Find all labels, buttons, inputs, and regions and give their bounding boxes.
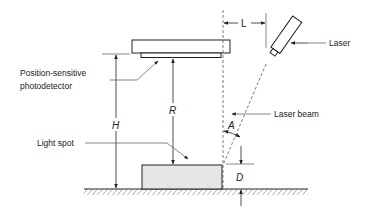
- ground: [84, 189, 308, 195]
- laser-callout: Laser: [291, 38, 350, 48]
- triangulation-diagram: L Laser Laser beam Position-sensitive ph…: [0, 0, 368, 212]
- photodetector-callout: Position-sensitive photodetector: [20, 61, 158, 91]
- dim-L-label: L: [241, 18, 247, 29]
- laser-device: [268, 16, 302, 58]
- dim-H-label: H: [112, 120, 120, 131]
- dimension-D: D: [226, 146, 254, 206]
- sensor-head: [132, 40, 230, 58]
- laser-beam-label: Laser beam: [274, 109, 319, 119]
- dimension-H: H: [102, 54, 130, 188]
- light-spot-callout: Light spot: [37, 138, 188, 159]
- photodetector-label-line2: photodetector: [20, 81, 72, 91]
- dimension-R: R: [167, 59, 179, 164]
- photodetector-label-line1: Position-sensitive: [20, 68, 86, 78]
- light-spot-label: Light spot: [37, 138, 74, 148]
- laser-label: Laser: [329, 38, 350, 48]
- dim-D-label: D: [236, 172, 243, 183]
- angle-A-label: A: [227, 120, 235, 131]
- target-block: [142, 165, 222, 189]
- laser-beam-callout: Laser beam: [232, 109, 319, 119]
- dim-R-label: R: [169, 105, 176, 116]
- laser-beam-line: [223, 64, 266, 165]
- photodetector: [141, 53, 221, 58]
- angle-A: A: [224, 120, 240, 137]
